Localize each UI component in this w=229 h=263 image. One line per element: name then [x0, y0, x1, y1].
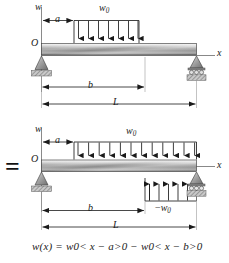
roller-support-top	[187, 56, 206, 80]
dim-b-label-top: b	[88, 80, 93, 90]
origin-label-bottom: O	[31, 154, 38, 164]
equation-term2-exponent: 0	[197, 240, 203, 252]
x-axis-label-bottom: x	[217, 160, 221, 170]
distributed-load-up-bottom	[145, 178, 197, 201]
load-label-bottom-top-symbol: w	[126, 125, 133, 136]
dim-extension-lines-top	[42, 57, 197, 108]
beam-bottom	[42, 160, 197, 172]
equation-term1-bracket-close: >	[114, 240, 122, 252]
w-axis-label-top: w	[35, 2, 42, 12]
load-label-bottom-top-subscript: 0	[133, 130, 137, 138]
dim-b-label-bottom: b	[88, 203, 93, 213]
dim-L-label-top: L	[113, 97, 119, 107]
load-label-bottom-negative: −w0	[155, 203, 171, 215]
beam-top	[42, 44, 197, 56]
dim-a-label-top: a	[55, 14, 60, 24]
equation-operator: −	[130, 240, 138, 252]
pin-support-top	[32, 56, 52, 76]
equation-term2-arg: x − b	[165, 240, 189, 252]
roller-support-bottom	[187, 172, 206, 196]
load-label-top: w0	[99, 3, 109, 15]
load-label-bottom-top: w0	[126, 126, 136, 138]
load-label-top-subscript: 0	[106, 7, 110, 15]
equation-term1-bracket-open: <	[79, 240, 87, 252]
equation-equals: =	[55, 240, 63, 252]
distributed-load-top	[74, 21, 139, 44]
origin-label-top: O	[31, 38, 38, 48]
singularity-function-equation: w(x) = w0< x − a>0 − w0< x − b>0	[32, 240, 202, 252]
pin-support-bottom	[32, 172, 52, 192]
w-axis-label-bottom: w	[35, 124, 42, 134]
equals-sign: =	[5, 152, 20, 182]
dim-L-label-bottom: L	[113, 220, 119, 230]
dim-a-label-bottom: a	[55, 135, 60, 145]
equation-term1-arg: x − a	[90, 240, 114, 252]
equation-term1-exponent: 0	[122, 240, 128, 252]
load-label-top-symbol: w	[99, 2, 106, 13]
distributed-load-down-bottom	[74, 142, 197, 160]
equation-term2-bracket-open: <	[154, 240, 162, 252]
load-label-bottom-subscript: 0	[167, 207, 171, 215]
x-axis-label-top: x	[217, 48, 221, 58]
equation-lhs: w(x)	[32, 240, 52, 252]
equation-term2-bracket-close: >	[189, 240, 197, 252]
beam-loading-figure: w w0 a O x b L = w w0 a O x −w0 b L w(x)…	[0, 0, 229, 263]
